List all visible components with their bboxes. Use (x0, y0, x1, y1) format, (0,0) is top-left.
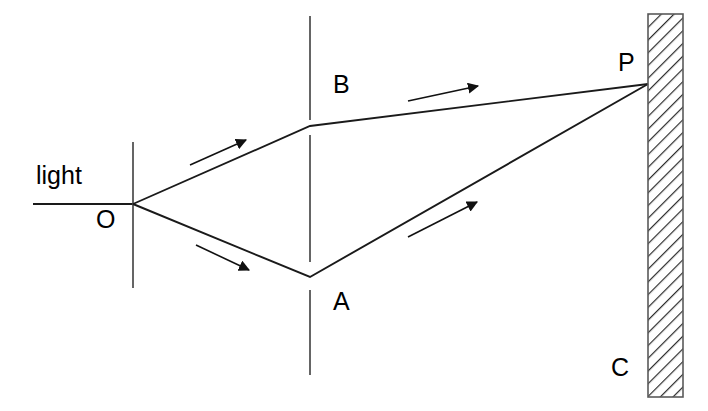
slit-label-a: A (333, 289, 350, 314)
screen-label-c: C (611, 355, 629, 380)
light-source-label: light (36, 163, 82, 188)
optics-diagram: light O B A P C (0, 0, 708, 411)
arrow-a-to-p-icon (408, 202, 477, 237)
ray-o-to-b-to-p (133, 84, 648, 204)
ray-o-to-a-to-p (133, 84, 648, 277)
slit-label-b: B (333, 72, 350, 97)
observation-screen (648, 14, 683, 397)
screen-point-label-p: P (618, 50, 635, 75)
arrow-o-to-b-icon (190, 140, 246, 165)
pinhole-label-o: O (96, 207, 115, 232)
arrow-b-to-p-icon (408, 86, 478, 101)
